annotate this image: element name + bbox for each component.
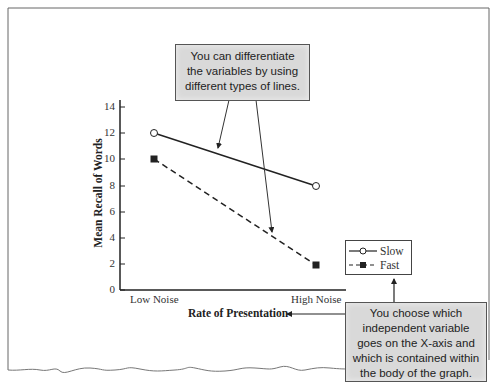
callout-line: You choose which	[346, 306, 486, 321]
fast-series-line	[154, 159, 316, 265]
legend-label-fast: Fast	[380, 259, 399, 271]
callout-line: the body of the graph.	[346, 366, 486, 381]
solid-line-open-circle-icon	[346, 244, 380, 258]
legend-item-slow: Slow	[346, 244, 404, 258]
y-tick-label: 0	[95, 283, 115, 295]
x-category-high-noise: High Noise	[291, 293, 341, 305]
callout-line-types: You can differentiate the variables by u…	[175, 44, 310, 101]
fast-point-high-noise	[313, 262, 320, 269]
fast-point-low-noise	[151, 156, 158, 163]
callout-line: which is contained within	[346, 351, 486, 366]
slow-point-low-noise	[151, 130, 158, 137]
dashed-line-filled-square-icon	[346, 258, 380, 272]
callout-line: goes on the X-axis and	[346, 336, 486, 351]
legend-item-fast: Fast	[346, 258, 399, 272]
callout-x-axis-choice: You choose which independent variable go…	[345, 302, 487, 382]
torn-bottom-edge	[8, 366, 350, 372]
y-axis-label: Mean Recall of Words	[92, 123, 104, 263]
y-tick-label: 14	[95, 100, 115, 112]
callout-line: You can differentiate	[176, 49, 309, 64]
legend-label-slow: Slow	[380, 245, 404, 257]
callout-line: the variables by using	[176, 64, 309, 79]
arrow-to-fast-line	[256, 100, 272, 232]
x-category-low-noise: Low Noise	[130, 293, 179, 305]
x-axis-label: Rate of Presentation	[188, 307, 288, 319]
slow-point-high-noise	[313, 183, 320, 190]
callout-line: independent variable	[346, 321, 486, 336]
slow-series-line	[154, 133, 316, 186]
callout-line: different types of lines.	[176, 79, 309, 94]
arrow-to-slow-line	[218, 100, 229, 148]
legend: Slow Fast	[345, 240, 412, 275]
